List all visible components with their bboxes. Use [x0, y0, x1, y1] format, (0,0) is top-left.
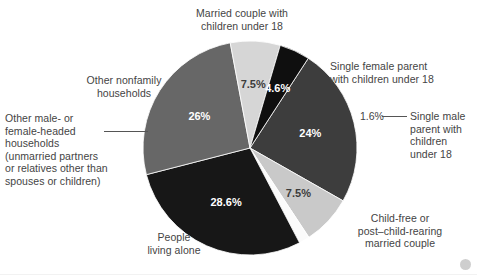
- slice-label-other-nonfamily-households: Other nonfamily households: [62, 74, 186, 99]
- leader-line-other-male-or-female-headed: [104, 131, 148, 132]
- slice-label-child-free: Child-free or post–child-rearing married…: [330, 212, 470, 250]
- slice-percent-child-free-or-post-child-rearing: 28.6%: [210, 196, 241, 208]
- pie-chart-figure: 24%7.5%28.6%26%7.5%4.6% Married couple w…: [0, 0, 477, 275]
- slice-percent-single-female-parent: 7.5%: [286, 187, 311, 199]
- slice-label-people-living-alone: People living alone: [118, 231, 230, 256]
- slice-label-other-male-or-female-headed: Other male- or female-headed households …: [5, 112, 137, 188]
- slice-label-single-female-parent: Single female parent with children under…: [330, 60, 477, 85]
- slice-label-single-male-parent: Single male parent with children under 1…: [410, 110, 477, 160]
- slice-percent-other-male-or-female-headed: 7.5%: [241, 78, 266, 90]
- slice-label-married-couple: Married couple with children under 18: [167, 7, 317, 32]
- slice-percent-other-nonfamily-households: 4.6%: [265, 82, 290, 94]
- slice-percent-married-couple-with-children: 24%: [299, 127, 321, 139]
- slice-percent-single-male-parent: 1.6%: [360, 110, 384, 122]
- corner-artifact-dot: [460, 259, 471, 270]
- slice-percent-people-living-alone: 26%: [188, 110, 210, 122]
- leader-line-single-male-parent: [382, 116, 407, 117]
